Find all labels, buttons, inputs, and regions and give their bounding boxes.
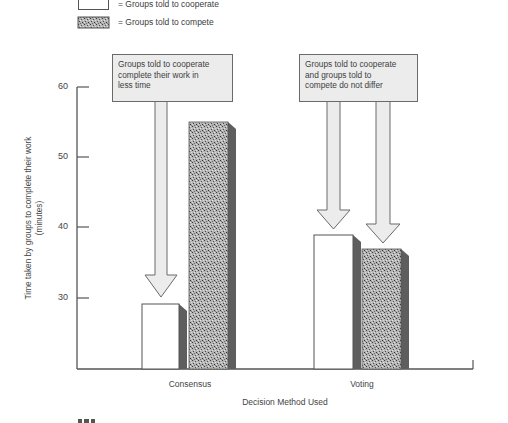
bar-voting-cooperate-shadow	[353, 235, 361, 369]
callout2-line1: Groups told to cooperate	[305, 59, 412, 70]
bar-voting-cooperate	[314, 235, 353, 369]
page-number-fragment	[78, 419, 82, 423]
y-tick-label-60: 60	[46, 81, 68, 91]
page-number-fragment	[91, 419, 95, 423]
legend-label-cooperate: = Groups told to cooperate	[118, 0, 219, 9]
arrow-callout2-to-voting-cooperate	[317, 101, 350, 229]
legend-swatch-cooperate	[78, 0, 109, 10]
y-tick-label-50: 50	[46, 151, 68, 161]
arrow-callout2-to-voting-compete	[366, 101, 400, 243]
bar-consensus-cooperate	[142, 304, 179, 369]
x-category-voting: Voting	[322, 379, 402, 389]
bar-consensus-compete	[189, 122, 228, 369]
chart-canvas	[0, 0, 508, 423]
callout1-line1: Groups told to cooperate	[118, 59, 227, 70]
legend-swatch-compete-fill	[78, 17, 109, 28]
legend-label-compete: = Groups told to compete	[118, 17, 214, 27]
bar-consensus-cooperate-shadow	[179, 304, 187, 369]
x-category-consensus: Consensus	[150, 379, 230, 389]
x-axis-title: Decision Method Used	[210, 397, 360, 407]
y-axis-title-main: Time taken by groups to complete their w…	[23, 118, 34, 318]
bar-voting-compete-shadow	[401, 249, 409, 369]
y-tick-label-40: 40	[46, 221, 68, 231]
callout2-line2: and groups told to	[305, 70, 412, 81]
bar-consensus-compete-shadow	[228, 122, 236, 369]
callout-no-difference: Groups told to cooperate and groups told…	[299, 54, 418, 102]
page-number-fragment	[84, 419, 89, 423]
callout-cooperate-less-time: Groups told to cooperate complete their …	[112, 54, 233, 102]
arrow-callout1-to-consensus-cooperate	[145, 101, 177, 297]
y-axis-title-units: (minutes)	[34, 118, 45, 318]
bar-voting-compete	[362, 249, 401, 369]
y-tick-label-30: 30	[46, 292, 68, 302]
y-axis-title: Time taken by groups to complete their w…	[23, 118, 47, 318]
callout1-line2: complete their work in	[118, 70, 227, 81]
callout2-line3: compete do not differ	[305, 80, 412, 91]
callout1-line3: less time	[118, 80, 227, 91]
